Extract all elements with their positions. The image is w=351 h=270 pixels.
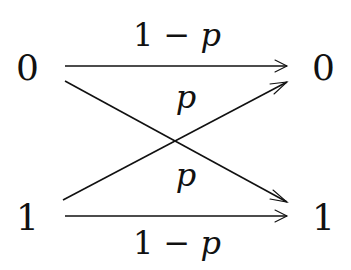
edge-label-1-to-0: p	[176, 78, 196, 116]
edge-label-0-to-1: p	[176, 156, 196, 194]
input-node-0: 0	[16, 47, 39, 88]
edge-label-1-to-1: 1 − p	[133, 224, 221, 262]
output-node-1: 1	[312, 197, 335, 238]
bsc-diagram: 0 1 0 1 1 − p p p 1 − p	[0, 0, 351, 270]
edge-0-to-0	[65, 60, 287, 72]
input-node-1: 1	[16, 197, 39, 238]
output-node-0: 0	[312, 47, 335, 88]
edge-1-to-1	[65, 210, 287, 222]
arrowhead-icon	[270, 82, 287, 94]
edge-label-0-to-0: 1 − p	[133, 16, 221, 54]
arrowhead-icon	[270, 190, 287, 202]
